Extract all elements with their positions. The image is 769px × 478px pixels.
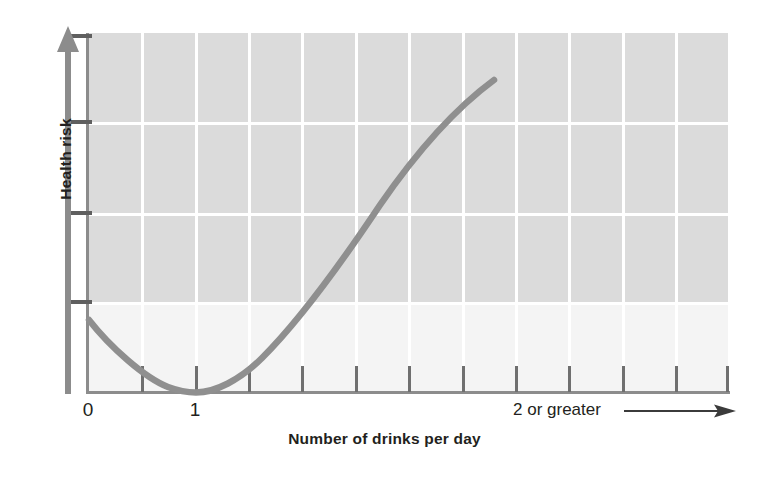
x-tick-label-1: 1 xyxy=(179,399,211,421)
x-axis-tick xyxy=(195,366,198,392)
x-axis-tick xyxy=(301,366,304,392)
x-axis-tick xyxy=(248,366,251,392)
x-axis-tick xyxy=(675,366,678,392)
x-axis-tick xyxy=(462,366,465,392)
x-axis-tick xyxy=(515,366,518,392)
y-axis-title: Health risk xyxy=(57,89,75,229)
x-axis-tick xyxy=(408,366,411,392)
x-axis-title: Number of drinks per day xyxy=(0,430,769,448)
horizontal-gridline xyxy=(88,302,728,305)
x-axis-tick xyxy=(726,366,729,392)
health-risk-chart-figure: Health risk 0 1 2 or greater Number of d… xyxy=(0,0,769,478)
x-axis-tick xyxy=(355,366,358,392)
x-axis-tick xyxy=(622,366,625,392)
x-tick-label-0: 0 xyxy=(72,399,104,421)
right-arrow-icon xyxy=(624,403,736,419)
x-axis-tick xyxy=(141,366,144,392)
x-axis-extension-note: 2 or greater xyxy=(513,400,601,420)
x-axis-tick xyxy=(568,366,571,392)
horizontal-gridline xyxy=(88,213,728,216)
horizontal-gridline xyxy=(88,122,728,125)
plot-area xyxy=(88,33,728,392)
